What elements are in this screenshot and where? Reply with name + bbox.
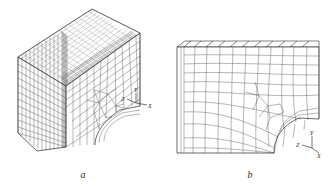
panel-a-caption: a — [0, 169, 166, 180]
panel-b-caption: b — [167, 169, 333, 180]
axis-label-x: X — [316, 153, 321, 159]
section-body — [177, 47, 319, 153]
axis-label-y: Y — [310, 130, 314, 136]
section-top-sliver — [177, 41, 319, 47]
axis-label-x: X — [147, 103, 152, 109]
panel-b-2d-mesh: Y Z X b — [167, 0, 333, 186]
figure-root: Y Z X a — [0, 0, 333, 186]
panel-a-3d-mesh: Y Z X a — [0, 0, 166, 186]
panel-a-svg: Y Z X — [0, 0, 166, 186]
axis-label-z: Z — [296, 142, 300, 148]
panel-b-svg: Y Z X — [167, 0, 333, 186]
coordinate-triad-b: Y Z X — [296, 130, 321, 159]
